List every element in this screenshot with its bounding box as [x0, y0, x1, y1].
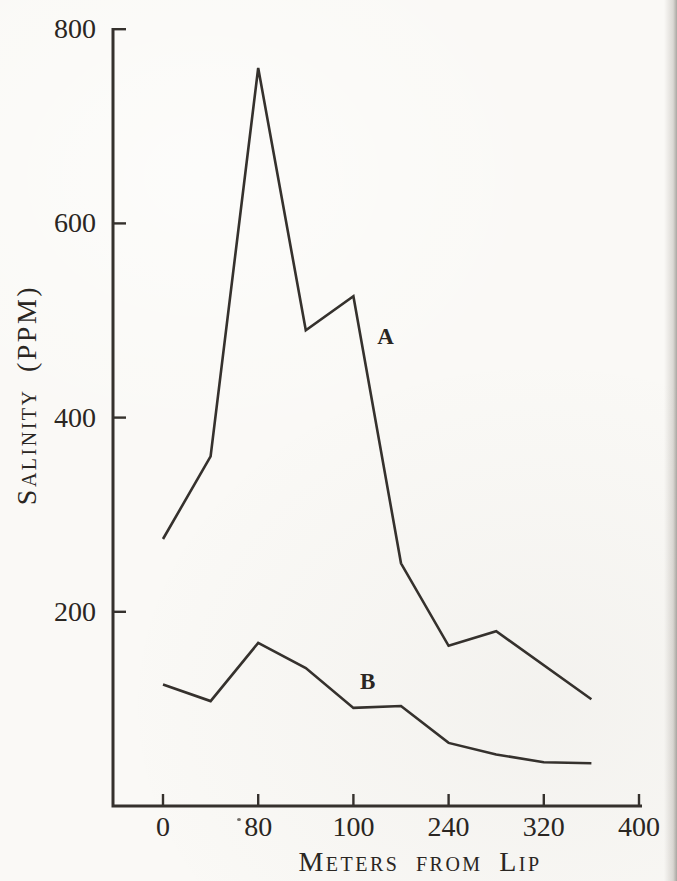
x-axis-title: Meters from Lip — [298, 846, 541, 878]
x-tick-label: 320 — [523, 812, 565, 842]
x-tick-label: 240 — [428, 812, 470, 842]
y-axis-title: Salinity (PPM) — [11, 285, 43, 505]
series-B-label: B — [360, 669, 375, 695]
y-tick-label: 400 — [0, 403, 96, 433]
axis-lines — [113, 28, 642, 806]
x-tick-label: 400 — [618, 812, 660, 842]
y-tick-label: 200 — [0, 597, 96, 627]
x-tick-label: 100 — [332, 812, 374, 842]
scanned-chart-page: Salinity (PPM) Meters from Lip 800600400… — [0, 0, 677, 881]
series-B-line — [163, 643, 591, 763]
x-tick-label: 80 — [244, 812, 272, 842]
scan-speck — [237, 818, 241, 821]
y-tick-label: 800 — [0, 14, 96, 44]
series-A-line — [163, 68, 591, 699]
x-tick-label: 0 — [156, 812, 170, 842]
series-A-label: A — [377, 324, 394, 350]
salinity-line-chart — [0, 0, 677, 881]
y-tick-label: 600 — [0, 208, 96, 238]
